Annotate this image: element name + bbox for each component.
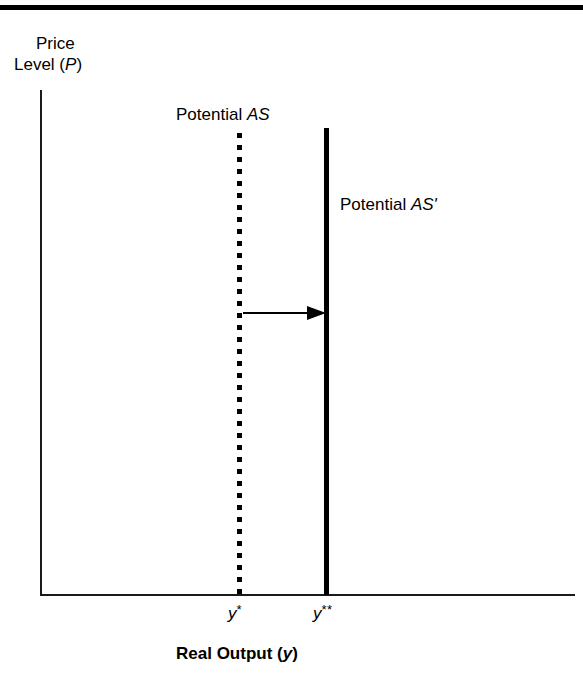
potential-as-label: Potential AS (176, 104, 270, 125)
potential-as-prime-curve (324, 128, 329, 595)
potential-as-label-prefix: Potential (176, 105, 247, 124)
x-tick-y-star-superscript: * (237, 602, 243, 617)
x-axis-title-suffix: ) (292, 644, 298, 663)
x-axis-title-prefix: Real Output ( (176, 644, 283, 663)
rightward-shift-arrow (243, 305, 327, 323)
top-divider-rule (0, 5, 583, 10)
arrow-head-icon (307, 306, 326, 320)
x-tick-label-y-double-star: y** (313, 602, 333, 624)
x-tick-y-double-star-variable: y (313, 604, 322, 623)
economics-diagram: Price Level (P) Potential AS Potential A… (0, 0, 583, 683)
y-axis-line (40, 90, 42, 596)
x-tick-y-double-star-superscript: ** (322, 602, 333, 617)
y-axis-title: Price Level (P) (14, 33, 82, 76)
potential-as-label-variable: AS (247, 105, 270, 124)
x-tick-label-y-star: y* (228, 602, 242, 624)
x-axis-title: Real Output (y) (176, 643, 298, 664)
arrow-shaft (243, 312, 313, 314)
potential-as-prime-label-prefix: Potential (340, 195, 411, 214)
y-axis-title-variable: P (65, 55, 76, 74)
y-axis-title-suffix: ) (76, 55, 82, 74)
y-axis-title-line-two: Level (P) (14, 54, 82, 75)
x-axis-title-variable: y (283, 644, 292, 663)
potential-as-curve (237, 133, 242, 595)
potential-as-prime-label: Potential AS' (340, 194, 437, 215)
x-tick-y-star-variable: y (228, 604, 237, 623)
x-axis-line (40, 594, 575, 596)
potential-as-prime-label-variable: AS' (411, 195, 437, 214)
y-axis-title-prefix: Level ( (14, 55, 65, 74)
y-axis-title-line-one: Price (14, 33, 82, 54)
